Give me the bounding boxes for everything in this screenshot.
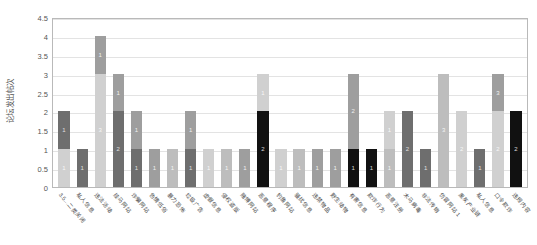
bar-value-label: 1: [80, 165, 83, 171]
bar-stack[interactable]: 11: [185, 19, 196, 187]
bar-stack[interactable]: 1: [474, 19, 485, 187]
bar-slot: 1: [362, 19, 380, 187]
bar-segment: 1: [95, 36, 106, 74]
bar-slot: 11: [55, 19, 73, 187]
bar-stack[interactable]: 1: [293, 19, 304, 187]
bar-slot: 11: [127, 19, 145, 187]
bar-segment: 1: [58, 111, 69, 149]
bar-slot: 3: [435, 19, 453, 187]
bar-stack[interactable]: 13: [95, 19, 106, 187]
bar-segment: 3: [95, 74, 106, 187]
x-tick-slot: 违规内容: [508, 189, 526, 245]
bar-stack[interactable]: 2: [456, 19, 467, 187]
x-tick-slot: 私人信息: [72, 189, 90, 245]
bar-value-label: 3: [442, 127, 445, 133]
y-tick-label: 3.5: [14, 51, 48, 60]
bar-segment: 1: [203, 149, 214, 187]
bar-stack[interactable]: 12: [257, 19, 268, 187]
bar-segment: 2: [510, 111, 521, 187]
x-tick-slot: 有害信息: [345, 189, 363, 245]
bar-segment: 1: [167, 149, 178, 187]
bar-slot: 1: [145, 19, 163, 187]
bar-value-label: 1: [135, 165, 138, 171]
bar-segment: 2: [348, 74, 359, 150]
bar-slot: 1: [471, 19, 489, 187]
y-tick-label: 3: [14, 70, 48, 79]
bar-stack[interactable]: 3: [438, 19, 449, 187]
bar-slot: 1: [326, 19, 344, 187]
bar-stack[interactable]: 1: [312, 19, 323, 187]
bar-segment: 1: [221, 149, 232, 187]
bar-stack[interactable]: 1: [275, 19, 286, 187]
bar-segment: 2: [113, 111, 124, 187]
bar-value-label: 1: [99, 52, 102, 58]
bar-value-label: 2: [261, 146, 264, 152]
y-tick-label: 0.5: [14, 165, 48, 174]
bar-stack[interactable]: 12: [113, 19, 124, 187]
x-tick-slot: 侵权盗版: [217, 189, 235, 245]
bar-stack[interactable]: 11: [58, 19, 69, 187]
bar-value-label: 1: [261, 90, 264, 96]
bar-value-label: 1: [243, 165, 246, 171]
bar-stack[interactable]: 1: [77, 19, 88, 187]
bar-stack[interactable]: 1: [420, 19, 431, 187]
bar-value-label: 2: [406, 146, 409, 152]
bar-segment: 1: [77, 149, 88, 187]
bar-segment: 1: [420, 149, 431, 187]
bar-stack[interactable]: 2: [510, 19, 521, 187]
x-tick-slot: 私人信息: [472, 189, 490, 245]
y-tick-label: 2: [14, 108, 48, 117]
bar-slot: 1: [236, 19, 254, 187]
y-tick-label: 1: [14, 146, 48, 155]
plot-area: 11113121111111111211112111121321322: [52, 18, 528, 188]
bar-value-label: 1: [388, 127, 391, 133]
bar-stack[interactable]: 11: [384, 19, 395, 187]
bar-slot: 2: [398, 19, 416, 187]
bar-segment: 1: [58, 149, 69, 187]
bar-slot: 12: [109, 19, 127, 187]
bar-stack[interactable]: 1: [239, 19, 250, 187]
bar-slot: 13: [91, 19, 109, 187]
bar-stack[interactable]: 1: [167, 19, 178, 187]
x-tick-slot: 骚扰信息: [290, 189, 308, 245]
bar-slot: 1: [272, 19, 290, 187]
bar-stack[interactable]: 1: [330, 19, 341, 187]
bar-stack[interactable]: 2: [402, 19, 413, 187]
bar-slot: 32: [489, 19, 507, 187]
bar-segment: 1: [348, 149, 359, 187]
bar-slot: 2: [453, 19, 471, 187]
bar-segment: 1: [257, 74, 268, 112]
bar-stack[interactable]: 32: [492, 19, 503, 187]
bar-segment: 1: [131, 111, 142, 149]
y-tick-label: 4: [14, 32, 48, 41]
y-tick-label: 4.5: [14, 14, 48, 23]
bar-value-label: 1: [225, 165, 228, 171]
bar-value-label: 1: [62, 165, 65, 171]
bar-segment: 1: [330, 149, 341, 187]
bar-segment: 1: [185, 111, 196, 149]
bar-value-label: 1: [135, 127, 138, 133]
bar-stack[interactable]: 1: [366, 19, 377, 187]
bar-stack[interactable]: 1: [149, 19, 160, 187]
bar-segment: 1: [275, 149, 286, 187]
bar-value-label: 1: [207, 165, 210, 171]
x-tick-slot: 恶意程序: [254, 189, 272, 245]
bar-stack[interactable]: 1: [221, 19, 232, 187]
bar-stack[interactable]: 1: [203, 19, 214, 187]
bar-segment: 2: [257, 111, 268, 187]
bar-stack[interactable]: 11: [131, 19, 142, 187]
bar-value-label: 1: [279, 165, 282, 171]
bar-stack[interactable]: 21: [348, 19, 359, 187]
x-tick-slot: 野生动物: [326, 189, 344, 245]
bar-value-label: 1: [388, 165, 391, 171]
x-tick-slot: 暴力恐怖: [163, 189, 181, 245]
x-tick-slot: 赌博网站: [236, 189, 254, 245]
bar-slot: 21: [344, 19, 362, 187]
y-tick-label: 1.5: [14, 127, 48, 136]
bar-slot: 1: [163, 19, 181, 187]
bar-value-label: 3: [496, 90, 499, 96]
bar-value-label: 3: [99, 127, 102, 133]
bar-value-label: 2: [496, 146, 499, 152]
bar-slot: 2: [507, 19, 525, 187]
bar-slot: 1: [73, 19, 91, 187]
